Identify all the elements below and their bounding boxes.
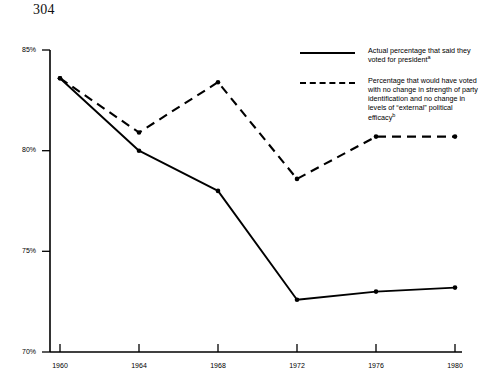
y-tick-label-80: 80% <box>10 146 36 153</box>
x-tick-label-1968: 1968 <box>200 362 236 369</box>
legend-swatch-dashed-line-icon <box>300 82 355 84</box>
x-tick-label-1960: 1960 <box>42 362 78 369</box>
legend-label-actual-text: Actual percentage that said they voted f… <box>368 46 471 64</box>
legend-label-actual: Actual percentage that said they voted f… <box>368 46 480 65</box>
legend-swatch-solid-line-icon <box>300 52 355 54</box>
x-tick-label-1980: 1980 <box>437 362 473 369</box>
legend-label-counterfactual-text: Percentage that would have voted with no… <box>368 76 478 122</box>
legend-footnote-a: a <box>428 54 431 60</box>
legend-entry-counterfactual: Percentage that would have voted with no… <box>300 76 480 122</box>
x-tick-label-1964: 1964 <box>121 362 157 369</box>
legend-entry-actual: Actual percentage that said they voted f… <box>300 46 480 65</box>
y-tick-label-75: 75% <box>10 247 36 254</box>
chart-legend: Actual percentage that said they voted f… <box>300 46 480 133</box>
legend-footnote-b: b <box>392 111 395 117</box>
y-tick-label-85: 85% <box>10 46 36 53</box>
x-axis-ticks <box>60 344 455 352</box>
x-tick-label-1976: 1976 <box>358 362 394 369</box>
legend-label-counterfactual: Percentage that would have voted with no… <box>368 76 480 122</box>
y-axis-ticks <box>42 50 50 352</box>
x-tick-label-1972: 1972 <box>279 362 315 369</box>
y-tick-label-70: 70% <box>10 348 36 355</box>
